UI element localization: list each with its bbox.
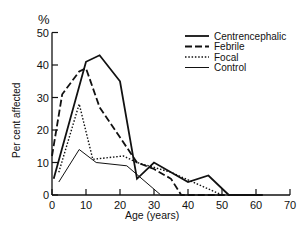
x-tick-label: 10 xyxy=(80,199,92,211)
y-tick-label: 40 xyxy=(37,59,49,71)
y-tick-label: 20 xyxy=(37,124,49,136)
legend-label-focal: Focal xyxy=(214,52,238,63)
line-chart: 01020304050010203040506070 Centrencephal… xyxy=(0,0,306,237)
y-tick-label: 50 xyxy=(37,27,49,39)
x-tick-label: 40 xyxy=(182,199,194,211)
x-tick-label: 50 xyxy=(216,199,228,211)
series-group xyxy=(52,55,263,195)
series-focal-line xyxy=(59,104,222,195)
legend-label-centrencephalic: Centrencephalic xyxy=(214,31,286,42)
series-control-line xyxy=(59,150,222,196)
legend-label-febrile: Febrile xyxy=(214,41,245,52)
x-axis-title: Age (years) xyxy=(125,209,179,221)
x-tick-label: 70 xyxy=(284,199,296,211)
x-tick-label: 60 xyxy=(250,199,262,211)
legend: CentrencephalicFebrileFocalControl xyxy=(185,31,286,74)
axes: 01020304050010203040506070 xyxy=(37,27,296,212)
legend-label-control: Control xyxy=(214,62,246,73)
y-unit-label: % xyxy=(38,12,50,27)
y-axis-title: Per cent affected xyxy=(11,83,22,158)
y-tick-label: 30 xyxy=(37,92,49,104)
series-febrile-line xyxy=(52,68,263,195)
y-tick-label: 10 xyxy=(37,157,49,169)
x-tick-label: 0 xyxy=(49,199,55,211)
